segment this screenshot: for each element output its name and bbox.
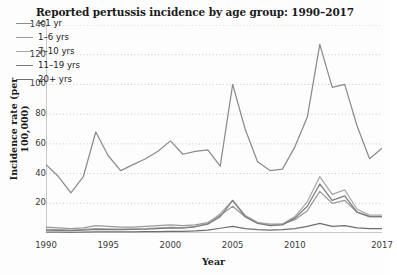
series-line (46, 44, 382, 193)
x-tick-label: 1990 (26, 240, 66, 250)
y-tick-label: 60 (20, 138, 46, 148)
x-tick-label: 1995 (88, 240, 128, 250)
legend-item[interactable]: 7–10 yrs (16, 44, 80, 58)
x-tick-label: 2017 (362, 240, 397, 250)
legend-item[interactable]: 11–19 yrs (16, 58, 80, 72)
legend-swatch-icon (16, 23, 33, 24)
series-line (46, 191, 382, 228)
legend: <1 yr1–6 yrs7–10 yrs11–19 yrs20+ yrs (16, 16, 80, 86)
x-tick-label: 2005 (213, 240, 253, 250)
legend-item-label: <1 yr (38, 19, 62, 28)
plot-area (46, 25, 382, 233)
legend-swatch-icon (16, 79, 33, 80)
legend-item-label: 20+ yrs (38, 75, 72, 84)
legend-item-label: 11–19 yrs (38, 61, 80, 70)
series-canvas (46, 25, 382, 233)
legend-swatch-icon (16, 51, 33, 52)
legend-item-label: 1–6 yrs (38, 33, 69, 42)
axis-lines (46, 25, 382, 233)
legend-item[interactable]: 20+ yrs (16, 72, 80, 86)
y-tick-label: 80 (20, 108, 46, 118)
legend-swatch-icon (16, 37, 33, 38)
y-tick-label: 20 (20, 197, 46, 207)
legend-item-label: 7–10 yrs (38, 47, 75, 56)
legend-item[interactable]: 1–6 yrs (16, 30, 80, 44)
x-tick-label: 2010 (275, 240, 315, 250)
x-axis-label: Year (45, 256, 382, 267)
legend-swatch-icon (16, 65, 33, 66)
series-line (46, 223, 382, 232)
y-tick-label: 40 (20, 168, 46, 178)
x-tick-label: 2000 (150, 240, 190, 250)
series-line (46, 184, 382, 231)
legend-item[interactable]: <1 yr (16, 16, 80, 30)
